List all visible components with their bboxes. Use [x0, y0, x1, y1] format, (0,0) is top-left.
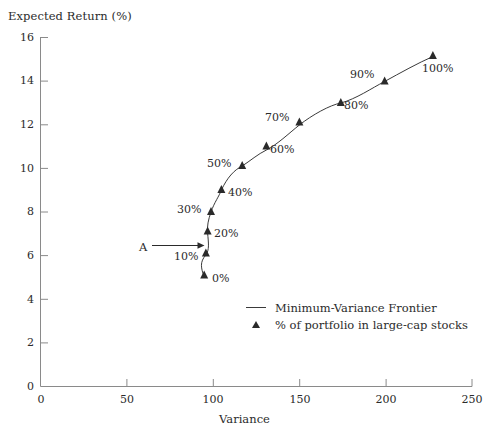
plot-area	[0, 0, 489, 434]
marker-50	[238, 161, 246, 169]
legend-label-portfolio: % of portfolio in large-cap stocks	[275, 318, 468, 332]
y-tick-0: 0	[8, 380, 34, 393]
point-label-90: 90%	[350, 68, 374, 81]
legend-label-frontier: Minimum-Variance Frontier	[275, 301, 437, 315]
marker-20	[204, 227, 212, 235]
point-label-10: 10%	[174, 250, 198, 263]
legend-item-portfolio: % of portfolio in large-cap stocks	[243, 316, 468, 333]
point-label-70: 70%	[265, 111, 289, 124]
y-tick-8: 8	[8, 205, 34, 218]
point-label-20: 20%	[214, 227, 238, 240]
point-label-60: 60%	[270, 143, 294, 156]
point-label-100: 100%	[422, 62, 453, 75]
y-tick-14: 14	[8, 74, 34, 87]
x-tick-250: 250	[452, 393, 489, 406]
point-label-50: 50%	[207, 157, 231, 170]
y-tick-12: 12	[8, 118, 34, 131]
point-label-80: 80%	[344, 99, 368, 112]
data-markers	[200, 51, 437, 279]
x-tick-200: 200	[366, 393, 406, 406]
legend: Minimum-Variance Frontier % of portfolio…	[243, 299, 468, 333]
frontier-curve	[201, 57, 432, 278]
annotation-arrow	[152, 242, 205, 249]
y-axis-ticks	[41, 38, 49, 343]
y-tick-16: 16	[8, 31, 34, 44]
point-label-0: 0%	[212, 272, 229, 285]
y-tick-10: 10	[8, 162, 34, 175]
marker-30	[207, 207, 215, 215]
x-tick-100: 100	[193, 393, 233, 406]
y-tick-6: 6	[8, 249, 34, 262]
triangle-marker-icon	[243, 321, 269, 328]
line-swatch-icon	[243, 307, 269, 308]
point-label-30: 30%	[177, 203, 201, 216]
legend-item-frontier: Minimum-Variance Frontier	[243, 299, 468, 316]
marker-40	[217, 185, 225, 193]
x-tick-0: 0	[21, 393, 61, 406]
marker-70	[295, 118, 303, 126]
annotation-label-a: A	[139, 240, 147, 254]
y-tick-4: 4	[8, 293, 34, 306]
marker-0	[200, 271, 208, 279]
point-label-40: 40%	[228, 186, 252, 199]
y-tick-2: 2	[8, 336, 34, 349]
minimum-variance-frontier-chart: Expected Return (%)	[0, 0, 489, 434]
marker-100	[429, 51, 437, 59]
x-tick-150: 150	[280, 393, 320, 406]
x-axis-ticks	[127, 379, 472, 387]
marker-10	[202, 249, 210, 257]
x-axis-title: Variance	[0, 412, 489, 426]
x-tick-50: 50	[107, 393, 147, 406]
